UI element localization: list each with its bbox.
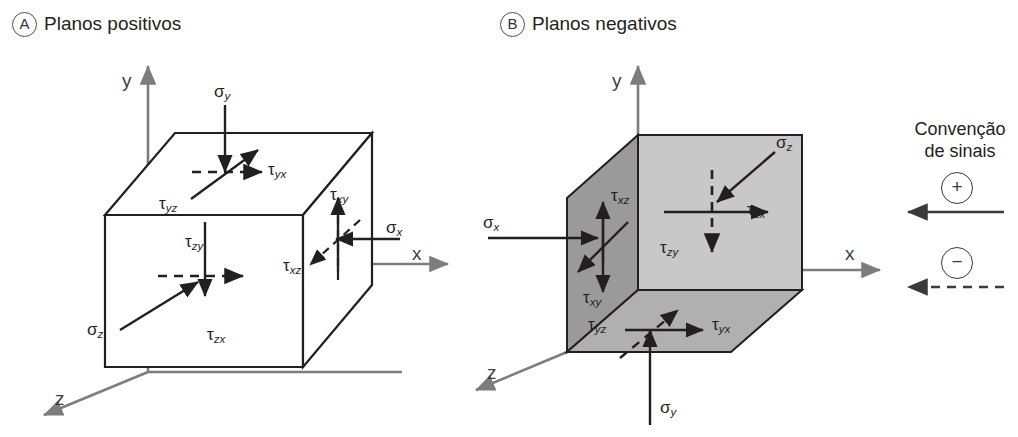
panel-b-label-tau-zx: τzx [747,200,765,220]
diagram-canvas [0,0,1018,437]
panel-b-label-tau-yz: τyz [588,315,606,335]
legend-positive-symbol: + [941,172,973,204]
legend-title-line1: Convenção [905,118,1015,140]
panel-a-cube [105,133,372,367]
panel-b-axis-label-z: z [487,362,497,384]
panel-a-axis-label-y: y [122,70,132,92]
panel-a-label-sigma-x: σx [386,218,402,238]
panel-title-a: Planos positivos [44,13,181,35]
panel-b-label-sigma-z: σz [776,133,792,153]
panel-a-label-tau-zy: τzy [185,232,203,252]
panel-a-label-tau-zx: τzx [207,325,225,345]
panel-badge-a: A [12,12,37,37]
legend-negative-symbol: − [941,247,973,279]
panel-a-label-tau-yx: τyx [268,160,286,180]
panel-badge-b: B [500,12,525,37]
panel-a-label-tau-xy: τxy [330,185,348,205]
panel-b-label-sigma-x: σx [483,213,499,233]
legend-title-line2: de sinais [905,140,1015,162]
panel-a-label-sigma-y: σy [214,82,230,102]
panel-title-b: Planos negativos [532,13,677,35]
panel-a-axis-label-x: x [412,243,422,265]
panel-b-label-sigma-y: σy [660,398,676,418]
panel-a-axis-label-z: z [55,388,65,410]
panel-b-label-tau-xz: τxz [611,186,629,206]
panel-a-label-sigma-z: σz [87,320,103,340]
panel-b-label-tau-yx: τyx [712,315,730,335]
panel-b-axis-label-y: y [612,70,622,92]
panel-a-label-tau-xz: τxz [283,256,301,276]
stress-convention-diagram: A Planos positivos y x z σy τyx τyz τxy … [0,0,1018,437]
panel-b-axis-label-x: x [845,243,855,265]
panel-a-label-tau-yz: τyz [159,194,177,214]
panel-b-label-tau-xy: τxy [583,288,601,308]
panel-b-label-tau-zy: τzy [660,238,678,258]
